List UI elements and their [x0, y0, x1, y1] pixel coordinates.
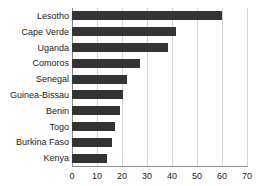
bar-row	[72, 119, 247, 135]
x-axis-tick-labels: 010203040506070	[0, 170, 269, 184]
bar[interactable]	[72, 138, 112, 147]
category-label: Lesotho	[0, 11, 69, 21]
category-label: Comoros	[0, 58, 69, 68]
bars-layer	[72, 8, 247, 166]
category-label: Kenya	[0, 153, 69, 163]
plot-area	[72, 8, 247, 166]
bar[interactable]	[72, 106, 120, 115]
bar-row	[72, 24, 247, 40]
category-label: Senegal	[0, 74, 69, 84]
category-label: Uganda	[0, 43, 69, 53]
gridline-70	[247, 8, 248, 166]
x-tick-label: 60	[217, 170, 227, 182]
bar-row	[72, 8, 247, 24]
x-tick-label: 0	[69, 170, 74, 182]
category-label: Guinea-Bissau	[0, 90, 69, 100]
category-axis-labels: LesothoCape VerdeUgandaComorosSenegalGui…	[0, 8, 69, 166]
x-axis-line	[72, 166, 248, 167]
bar-row	[72, 55, 247, 71]
bar[interactable]	[72, 59, 140, 68]
bar-chart: LesothoCape VerdeUgandaComorosSenegalGui…	[0, 0, 269, 186]
bar[interactable]	[72, 11, 222, 20]
bar[interactable]	[72, 27, 176, 36]
bar[interactable]	[72, 75, 127, 84]
category-label: Cape Verde	[0, 27, 69, 37]
bar-row	[72, 71, 247, 87]
bar[interactable]	[72, 43, 168, 52]
bar-row	[72, 87, 247, 103]
bar[interactable]	[72, 154, 107, 163]
x-tick-label: 70	[242, 170, 252, 182]
x-tick-label: 30	[142, 170, 152, 182]
x-tick-label: 10	[92, 170, 102, 182]
x-tick-label: 50	[192, 170, 202, 182]
bar[interactable]	[72, 122, 115, 131]
category-label: Togo	[0, 122, 69, 132]
x-tick-label: 20	[117, 170, 127, 182]
bar-row	[72, 134, 247, 150]
category-label: Burkina Faso	[0, 137, 69, 147]
category-label: Benin	[0, 106, 69, 116]
bar-row	[72, 150, 247, 166]
x-tick-label: 40	[167, 170, 177, 182]
bar-row	[72, 40, 247, 56]
bar-row	[72, 103, 247, 119]
bar[interactable]	[72, 90, 123, 99]
